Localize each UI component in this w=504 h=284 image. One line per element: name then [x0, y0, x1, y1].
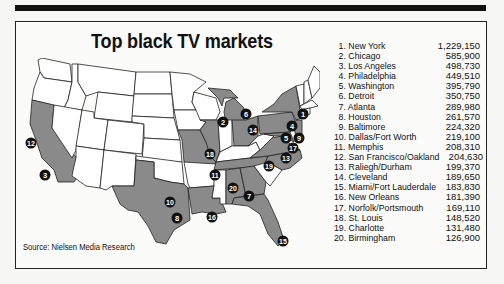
- marker-5: 5: [281, 133, 292, 144]
- marker-7: 7: [244, 191, 255, 202]
- svg-text:10: 10: [166, 199, 174, 206]
- svg-text:12: 12: [27, 140, 35, 147]
- svg-text:17: 17: [289, 145, 297, 152]
- marker-12: 12: [26, 138, 37, 149]
- us-map: 1 2 3 4 5 6 7 8 9 10 11 12 13 14 15 16 1…: [20, 58, 320, 258]
- market-row: 20. Birmingham126,900: [334, 233, 480, 243]
- svg-text:7: 7: [247, 192, 251, 201]
- marker-18: 18: [205, 149, 216, 160]
- svg-text:14: 14: [249, 127, 257, 134]
- state-nm: [100, 150, 136, 190]
- market-list: 1. New York1,229,150 2. Chicago585,900 3…: [334, 41, 480, 243]
- marker-4: 4: [287, 121, 298, 132]
- svg-text:3: 3: [43, 171, 47, 180]
- marker-17: 17: [288, 143, 299, 154]
- marker-20: 20: [228, 183, 239, 194]
- svg-text:2: 2: [221, 118, 225, 127]
- marker-15: 15: [278, 236, 289, 247]
- marker-11: 11: [210, 170, 221, 181]
- svg-text:19: 19: [265, 163, 273, 170]
- marker-9: 9: [294, 133, 305, 144]
- marker-6: 6: [241, 109, 252, 120]
- state-nd: [134, 72, 172, 94]
- marker-10: 10: [165, 197, 176, 208]
- svg-text:9: 9: [297, 134, 301, 143]
- marker-19: 19: [264, 161, 275, 172]
- svg-text:11: 11: [211, 172, 219, 179]
- marker-2: 2: [218, 117, 229, 128]
- svg-text:18: 18: [206, 151, 214, 158]
- marker-14: 14: [248, 125, 259, 136]
- source-note: Source: Nielsen Media Research: [23, 242, 135, 252]
- marker-3: 3: [40, 170, 51, 181]
- svg-text:16: 16: [208, 214, 216, 221]
- state-wy: [94, 92, 134, 122]
- marker-1: 1: [298, 109, 309, 120]
- svg-text:5: 5: [284, 134, 288, 143]
- marker-13: 13: [281, 153, 292, 164]
- svg-text:8: 8: [175, 214, 179, 223]
- svg-text:6: 6: [244, 110, 248, 119]
- marker-16: 16: [207, 212, 218, 223]
- svg-text:15: 15: [279, 238, 287, 245]
- svg-text:13: 13: [282, 155, 290, 162]
- marker-8: 8: [172, 213, 183, 224]
- state-fl: [232, 194, 284, 246]
- top-rule: [15, 5, 486, 11]
- svg-text:20: 20: [229, 185, 237, 192]
- state-sd: [132, 94, 174, 118]
- chart-title: Top black TV markets: [91, 29, 273, 53]
- state-mt: [78, 64, 136, 96]
- svg-text:1: 1: [301, 110, 305, 119]
- state-az: [72, 146, 104, 188]
- state-co: [104, 120, 144, 154]
